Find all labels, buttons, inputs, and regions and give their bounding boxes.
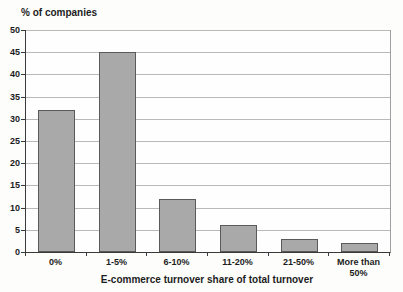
y-tick-label: 30 (0, 114, 20, 124)
x-tick-mark (389, 253, 390, 256)
gridline (26, 208, 390, 209)
x-tick-mark (268, 253, 269, 256)
y-tick-label: 25 (0, 136, 20, 146)
gridline (26, 230, 390, 231)
x-tick-mark (146, 253, 147, 256)
x-tick-label: 0% (25, 257, 86, 268)
y-tick-mark (21, 97, 25, 98)
x-tick-mark (86, 253, 87, 256)
y-tick-label: 20 (0, 158, 20, 168)
y-tick-label: 35 (0, 92, 20, 102)
y-tick-mark (21, 208, 25, 209)
x-tick-label: 6-10% (146, 257, 207, 268)
y-tick-mark (21, 230, 25, 231)
x-tick-label: 21-50% (268, 257, 329, 268)
x-tick-label: 1-5% (86, 257, 147, 268)
bar-21-50% (281, 239, 318, 252)
bar-6-10% (159, 199, 196, 252)
gridline (26, 30, 390, 31)
gridline (26, 185, 390, 186)
y-tick-mark (21, 163, 25, 164)
x-tick-mark (328, 253, 329, 256)
y-tick-mark (21, 74, 25, 75)
y-tick-label: 10 (0, 203, 20, 213)
bar-More than 50% (341, 243, 378, 252)
plot-area (25, 30, 391, 253)
gridline (26, 97, 390, 98)
y-tick-label: 5 (0, 225, 20, 235)
y-tick-label: 40 (0, 69, 20, 79)
y-tick-mark (21, 119, 25, 120)
x-tick-label: 11-20% (207, 257, 268, 268)
gridline (26, 74, 390, 75)
bar-chart-figure: % of companies E-commerce turnover share… (0, 0, 403, 292)
gridline (26, 163, 390, 164)
y-tick-mark (21, 30, 25, 31)
y-axis-title: % of companies (21, 7, 97, 18)
y-tick-label: 15 (0, 180, 20, 190)
bar-11-20% (220, 225, 257, 252)
x-tick-label: More than 50% (328, 257, 389, 279)
bar-0% (38, 110, 75, 252)
x-tick-mark (25, 253, 26, 256)
x-tick-mark (207, 253, 208, 256)
gridline (26, 141, 390, 142)
y-tick-label: 45 (0, 47, 20, 57)
gridline (26, 52, 390, 53)
y-tick-label: 0 (0, 247, 20, 257)
y-tick-mark (21, 52, 25, 53)
y-tick-label: 50 (0, 25, 20, 35)
y-tick-mark (21, 185, 25, 186)
y-tick-mark (21, 141, 25, 142)
bar-1-5% (99, 52, 136, 252)
gridline (26, 119, 390, 120)
